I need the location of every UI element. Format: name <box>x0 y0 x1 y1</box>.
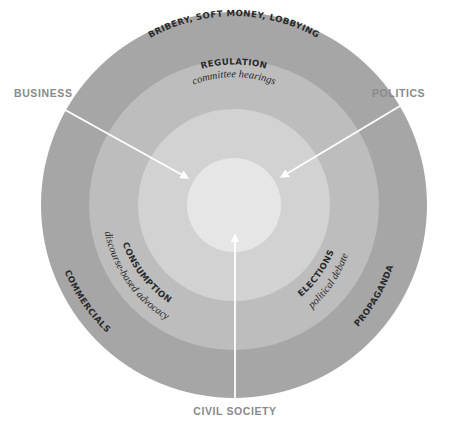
civil-society-label: CIVIL SOCIETY <box>193 405 276 417</box>
business-label: BUSINESS <box>14 87 72 99</box>
politics-label: POLITICS <box>372 87 425 99</box>
core-circle <box>187 158 281 252</box>
influence-diagram: BUSINESS POLITICS CIVIL SOCIETY BRIBERY,… <box>0 0 450 425</box>
